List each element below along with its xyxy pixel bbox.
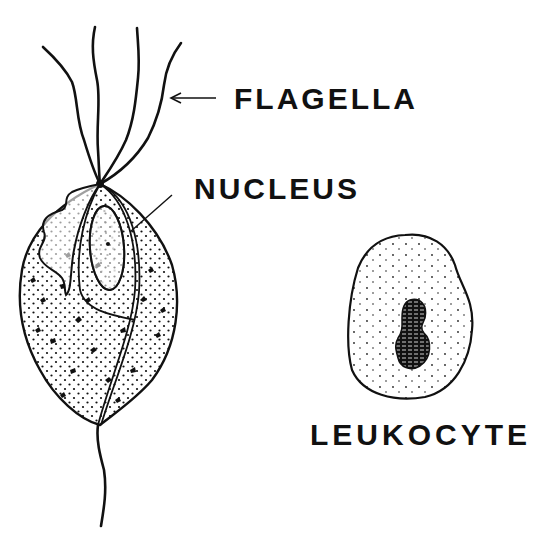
label-flagella: FLAGELLA	[234, 84, 418, 114]
flagella-strands	[43, 27, 181, 184]
trichomonad-organism	[20, 27, 181, 526]
flagella-pointer-arrow	[171, 93, 216, 103]
leukocyte-cell	[348, 235, 472, 399]
label-nucleus: NUCLEUS	[194, 174, 360, 204]
diagram-canvas: FLAGELLA NUCLEUS LEUKOCYTE	[0, 0, 552, 538]
posterior-flagellum	[97, 425, 105, 526]
label-leukocyte: LEUKOCYTE	[310, 420, 531, 450]
diagram-illustration	[0, 0, 552, 538]
